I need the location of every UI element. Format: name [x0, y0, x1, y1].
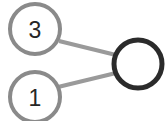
- graph-diagram: 3 1: [0, 0, 165, 121]
- node-1-label: 1: [29, 85, 42, 111]
- node-3-label: 3: [29, 17, 42, 43]
- node-1[interactable]: 1: [10, 72, 60, 121]
- graph-canvas: 3 1: [0, 0, 165, 121]
- node-empty[interactable]: [114, 40, 162, 88]
- edge-node3-to-node-empty: [59, 41, 116, 55]
- node-empty-circle[interactable]: [114, 40, 162, 88]
- node-3[interactable]: 3: [10, 4, 60, 54]
- edge-node1-to-node-empty: [58, 73, 116, 87]
- edge-group: [58, 41, 116, 87]
